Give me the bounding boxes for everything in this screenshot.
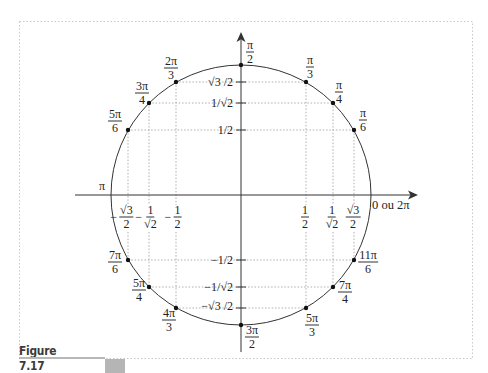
- angle-label-7pi-over-4: 7π 4: [338, 280, 352, 305]
- x-tick-1-half: 1 2: [301, 205, 309, 230]
- angle-label-pi: π: [99, 180, 105, 192]
- caption-bar: [105, 359, 125, 373]
- angle-label-pi-over-3: π 3: [306, 55, 314, 80]
- x-tick-neg-1-half: − 1 2: [165, 205, 182, 230]
- caption-underline: [19, 357, 105, 359]
- angle-label-pi-over-6: π 6: [359, 108, 367, 133]
- angle-label-5pi-over-6: 5π 6: [108, 109, 122, 134]
- y-tick-neg-1-over-sqrt2: −1/√2: [204, 281, 233, 293]
- angle-label-4pi-over-3: 4π 3: [162, 308, 176, 333]
- y-tick-neg-sqrt3-over-2: −√3 /2: [201, 300, 233, 312]
- angle-label-2pi-over-3: 2π 3: [164, 56, 178, 81]
- y-tick-sqrt3-over-2: √3 /2: [208, 76, 233, 88]
- y-tick-neg-1-half: −1/2: [211, 254, 233, 266]
- angle-label-pi-over-4: π 4: [335, 80, 343, 105]
- y-tick-1-half: 1/2: [218, 124, 233, 136]
- angle-label-11pi-over-6: 11π 6: [358, 250, 378, 275]
- x-tick-neg-1-over-sqrt2: − 1 √2: [135, 205, 156, 230]
- angle-label-3pi-over-4: 3π 4: [135, 81, 149, 106]
- angle-label-7pi-over-6: 7π 6: [108, 250, 122, 275]
- x-axis-label: 0 ou 2π: [372, 199, 410, 211]
- x-tick-1-over-sqrt2: 1 √2: [326, 205, 339, 230]
- angle-label-5pi-over-4: 5π 4: [132, 278, 146, 303]
- x-tick-neg-sqrt3-over-2: − √3 2: [110, 205, 133, 230]
- x-tick-sqrt3-over-2: √3 2: [346, 205, 361, 230]
- y-tick-1-over-sqrt2: 1/√2: [211, 97, 233, 109]
- angle-label-pi-over-2: π 2: [246, 40, 254, 65]
- angle-label-5pi-over-3: 5π 3: [305, 313, 319, 338]
- angle-label-3pi-over-2: 3π 2: [245, 325, 259, 350]
